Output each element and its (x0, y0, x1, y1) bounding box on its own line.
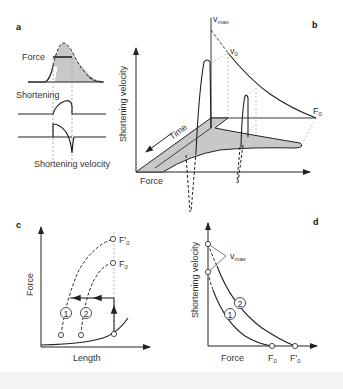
svg-text:1: 1 (64, 309, 69, 319)
panel-c-label: c (16, 220, 21, 230)
force-trace-label: Force (22, 52, 45, 62)
curve-1-marker: 1 (61, 308, 72, 319)
panel-a: a Force Shortening Shortening velocity (16, 22, 111, 169)
v0-label: v0 (230, 46, 239, 57)
f0-prime-label: F'0 (119, 235, 130, 246)
panel-b-label: b (312, 20, 318, 30)
curve-2 (217, 266, 295, 346)
panel-d: d Shortening velocity Force vmax 1 2 F0 … (190, 217, 319, 364)
panel-c: c Force Length 1 2 (16, 220, 150, 363)
svg-text:2: 2 (84, 309, 89, 319)
curve-1 (61, 239, 113, 335)
fv-curve (228, 53, 316, 118)
x-axis-label: Length (73, 353, 101, 363)
figure-canvas: a Force Shortening Shortening velocity b (0, 0, 343, 389)
y-axis-label: Shortening velocity (118, 65, 128, 142)
y-axis-label: Force (25, 273, 35, 296)
x-axis-label: Force (221, 353, 244, 363)
panel-d-label: d (313, 217, 319, 227)
svg-text:2: 2 (238, 299, 243, 309)
f0-label: F0 (119, 259, 129, 270)
shortening-trace-label: Shortening (16, 90, 60, 100)
panel-a-label: a (16, 22, 22, 32)
velocity-trace-label: Shortening velocity (34, 159, 111, 169)
vmax-label: vmax (213, 14, 229, 25)
y-axis-label: Shortening velocity (190, 241, 200, 318)
curve-2-marker: 2 (81, 308, 92, 319)
curve-2 (81, 263, 113, 335)
data-points (58, 236, 116, 337)
curve-2-marker: 2 (235, 298, 246, 309)
curve-1-marker: 1 (225, 309, 236, 320)
fv-curve-extrapolated (211, 30, 228, 53)
f0-prime-label: F'0 (290, 353, 301, 364)
velocity-trace (18, 124, 106, 153)
x-axis-label: Force (140, 176, 163, 186)
caption-strip (0, 372, 343, 389)
panel-b: b Shortening velocity Force vmax v0 F0 (118, 14, 323, 212)
f0-label: F0 (268, 353, 278, 364)
f0-label: F0 (313, 106, 323, 117)
vmax-label: vmax (230, 251, 246, 262)
svg-text:1: 1 (228, 310, 233, 320)
data-points (205, 241, 297, 348)
force-trace (28, 43, 104, 82)
vmax-bracket (208, 244, 226, 272)
shortening-trace (18, 101, 106, 114)
